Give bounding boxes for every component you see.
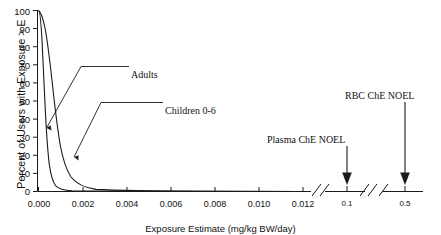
exposure-distribution-chart: Percent of Users with Exposure > E 100 9… bbox=[0, 0, 441, 235]
y-tick-marks bbox=[33, 11, 38, 192]
arrow-head-rbc bbox=[400, 173, 410, 186]
axis-break-marks bbox=[312, 184, 388, 196]
axis-lines bbox=[38, 10, 424, 192]
curve-adults bbox=[39, 11, 304, 192]
curve-children bbox=[39, 11, 304, 192]
plot-graphics bbox=[0, 0, 441, 235]
arrow-head-plasma bbox=[342, 173, 352, 186]
noel-arrows bbox=[342, 102, 410, 185]
leader-lines bbox=[47, 67, 164, 161]
data-curves bbox=[39, 11, 304, 192]
leader-children bbox=[74, 103, 163, 158]
leader-adults bbox=[47, 67, 130, 129]
